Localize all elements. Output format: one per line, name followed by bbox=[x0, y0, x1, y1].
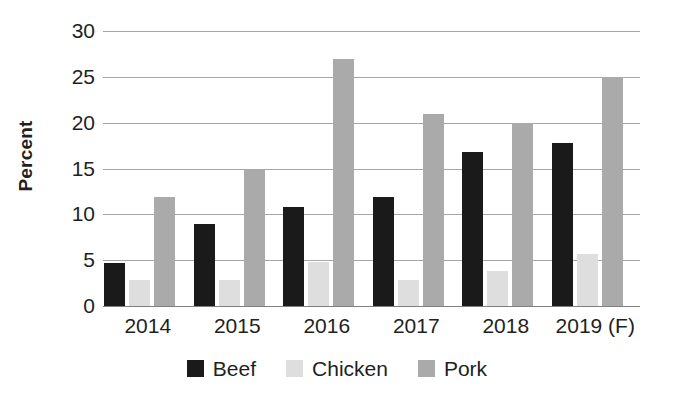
bar-beef-2014 bbox=[104, 263, 125, 306]
x-axis-tick-labels: 201420152016201720182019 (F) bbox=[103, 313, 640, 343]
legend-label: Pork bbox=[444, 358, 487, 379]
bar-group bbox=[551, 31, 641, 306]
plot-area bbox=[103, 31, 640, 306]
bar-chicken-2014 bbox=[129, 280, 150, 306]
bar-chicken-2018 bbox=[487, 271, 508, 306]
bar-beef-2019F bbox=[552, 143, 573, 306]
legend-swatch-icon bbox=[187, 360, 204, 377]
bar-group bbox=[372, 31, 462, 306]
x-axis-tick-label: 2015 bbox=[193, 313, 283, 339]
bar-group bbox=[282, 31, 372, 306]
bar-chicken-2017 bbox=[398, 280, 419, 306]
legend-swatch-icon bbox=[418, 360, 435, 377]
bar-chicken-2019F bbox=[577, 254, 598, 306]
y-axis-tick-labels: 051015202530 bbox=[40, 31, 95, 306]
y-axis-tick-label: 30 bbox=[49, 20, 95, 41]
y-axis-tick-label: 25 bbox=[49, 66, 95, 87]
bar-pork-2016 bbox=[333, 59, 354, 307]
legend-label: Chicken bbox=[312, 358, 388, 379]
bar-beef-2015 bbox=[194, 224, 215, 307]
bar-pork-2014 bbox=[154, 197, 175, 306]
x-axis-tick-label: 2016 bbox=[282, 313, 372, 339]
y-axis-title-label: Percent bbox=[15, 120, 37, 191]
legend-item-pork[interactable]: Pork bbox=[418, 358, 487, 379]
bar-beef-2017 bbox=[373, 197, 394, 306]
chart-legend: BeefChickenPork bbox=[0, 358, 674, 379]
bar-pork-2019F bbox=[602, 77, 623, 306]
x-axis-tick-label: 2018 bbox=[461, 313, 551, 339]
gridline bbox=[103, 306, 640, 307]
bar-chicken-2015 bbox=[219, 280, 240, 306]
y-axis-tick-label: 0 bbox=[49, 295, 95, 316]
legend-item-beef[interactable]: Beef bbox=[187, 358, 256, 379]
x-axis-tick-label: 2014 bbox=[103, 313, 193, 339]
bar-group bbox=[103, 31, 193, 306]
bar-beef-2016 bbox=[283, 207, 304, 306]
y-axis-tick-label: 5 bbox=[49, 249, 95, 270]
bar-pork-2018 bbox=[512, 123, 533, 306]
bar-group bbox=[461, 31, 551, 306]
bar-beef-2018 bbox=[462, 152, 483, 306]
x-axis-tick-label: 2019 (F) bbox=[551, 313, 641, 339]
legend-label: Beef bbox=[213, 358, 256, 379]
bar-group bbox=[193, 31, 283, 306]
y-axis-tick-label: 15 bbox=[49, 158, 95, 179]
y-axis-tick-label: 20 bbox=[49, 112, 95, 133]
bar-chart: Percent 051015202530 2014201520162017201… bbox=[0, 0, 674, 408]
bar-pork-2015 bbox=[244, 169, 265, 307]
legend-item-chicken[interactable]: Chicken bbox=[286, 358, 388, 379]
bar-pork-2017 bbox=[423, 114, 444, 307]
y-axis-tick-label: 10 bbox=[49, 203, 95, 224]
bar-chicken-2016 bbox=[308, 262, 329, 306]
legend-swatch-icon bbox=[286, 360, 303, 377]
x-axis-tick-label: 2017 bbox=[372, 313, 462, 339]
